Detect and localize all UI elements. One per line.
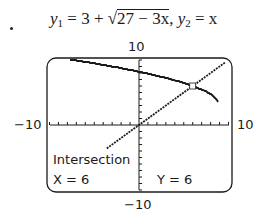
intersection-cursor [190, 83, 196, 89]
y2-line [107, 63, 225, 149]
y1-curve [70, 60, 218, 102]
readout-y: Y = 6 [157, 172, 192, 187]
readout-heading: Intersection [53, 152, 130, 167]
plot-area [50, 60, 230, 190]
readout-x: X = 6 [53, 172, 89, 187]
calculator-screen [0, 0, 268, 221]
